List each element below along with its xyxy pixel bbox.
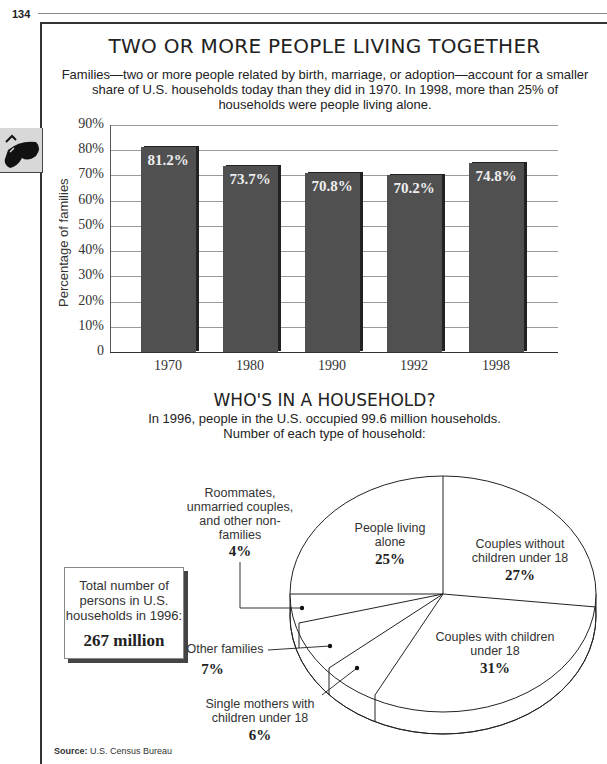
label-single-mothers: Single mothers with children under 18 — [195, 697, 325, 725]
label-line: children under 18 — [195, 711, 325, 725]
pct-other-families: 7% — [180, 661, 245, 678]
label-line: Couples without — [455, 537, 585, 551]
label-line: alone — [340, 535, 440, 549]
source-text: U.S. Census Bureau — [90, 746, 172, 756]
label-line: Other families — [180, 642, 270, 656]
total-persons-box: Total number of persons in U.S. househol… — [64, 567, 184, 659]
label-line: Couples with children — [420, 630, 570, 644]
pct-couples-without: 27% — [455, 567, 585, 584]
source-note: Source: U.S. Census Bureau — [54, 746, 172, 756]
label-line: Roommates, — [185, 486, 295, 500]
pct-roommates: 4% — [185, 543, 295, 560]
total-box-line: persons in U.S. — [65, 593, 183, 608]
pct-couples-with: 31% — [420, 660, 570, 677]
label-line: and other non- — [185, 514, 295, 528]
label-line: children under 18 — [455, 551, 585, 565]
label-couples-without: Couples without children under 18 — [455, 537, 585, 565]
label-people-alone: People living alone — [340, 521, 440, 549]
label-roommates: Roommates, unmarried couples, and other … — [185, 486, 295, 542]
source-label: Source: — [54, 746, 88, 756]
label-line: families — [185, 528, 295, 542]
total-box-line: Total number of — [65, 578, 183, 593]
label-line: Single mothers with — [195, 697, 325, 711]
label-line: People living — [340, 521, 440, 535]
pct-people-alone: 25% — [340, 551, 440, 568]
pct-single-mothers: 6% — [195, 727, 325, 744]
total-persons-value: 267 million — [65, 631, 183, 651]
label-couples-with: Couples with children under 18 — [420, 630, 570, 658]
label-line: unmarried couples, — [185, 500, 295, 514]
label-line: under 18 — [420, 644, 570, 658]
label-other-families: Other families — [180, 642, 270, 656]
total-box-line: households in 1996: — [65, 608, 183, 623]
